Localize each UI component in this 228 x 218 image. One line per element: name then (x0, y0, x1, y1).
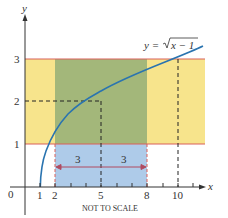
x-tick-label-10: 10 (172, 189, 184, 201)
x-tick-label-5: 5 (98, 189, 104, 201)
x-axis-label: x (207, 180, 213, 192)
y-tick-label-2: 2 (14, 95, 20, 107)
y-tick-label-3: 3 (14, 53, 20, 65)
origin-label: 0 (8, 188, 14, 200)
y-tick-label-1: 1 (14, 138, 20, 150)
delta-left-label: 3 (75, 153, 81, 165)
function-label: y = x − 1 (143, 38, 198, 51)
not-to-scale-note: NOT TO SCALE (82, 204, 138, 213)
x-tick-label-8: 8 (144, 189, 150, 201)
function-label-lhs: y = (143, 39, 159, 51)
x-axis-arrow-icon (199, 185, 206, 190)
x-tick-label-2: 2 (52, 189, 58, 201)
function-label-radicand: x − 1 (170, 39, 194, 51)
y-axis-arrow-icon (23, 14, 28, 21)
delta-right-label: 3 (121, 153, 127, 165)
y-axis-label: y (21, 2, 27, 14)
x-tick-label-1: 1 (37, 189, 43, 201)
epsilon-delta-diagram: 3 3 y x 0 1 2 5 8 10 1 2 3 y = x − 1 NOT… (0, 0, 228, 218)
